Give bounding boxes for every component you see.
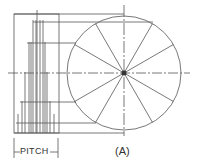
radial-line [124, 73, 173, 102]
radial-line [124, 24, 153, 73]
radial-line [96, 73, 125, 122]
projection-frame [14, 14, 59, 133]
radial-line [75, 73, 124, 102]
figure-label: (A) [115, 145, 130, 157]
radial-line [124, 45, 173, 74]
radial-line [75, 45, 124, 74]
center-point [122, 71, 127, 76]
pitch-label: PITCH [20, 146, 49, 156]
radial-line [96, 24, 125, 73]
radial-line [124, 73, 153, 122]
diagram-canvas [0, 0, 200, 162]
